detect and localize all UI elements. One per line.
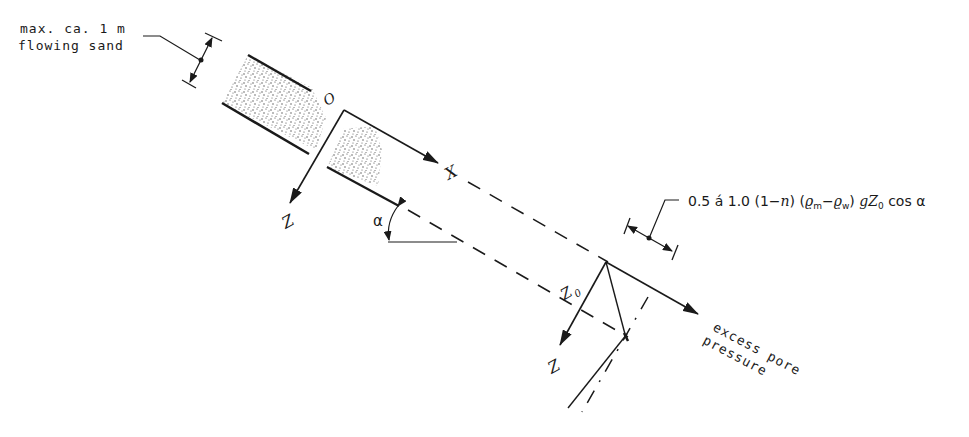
origin-label: O: [320, 89, 338, 109]
alpha-label: α: [373, 212, 383, 230]
pressure-magnitude-annotation: 0.5 á 1.0 (1−n) (ϱm−ϱw) gZ0 cos α: [624, 193, 925, 260]
slope-angle-indicator: α: [373, 206, 457, 242]
z0-label: Z 0: [556, 279, 583, 306]
sand-block-lower: [327, 126, 399, 206]
dashed-reference-lines: [408, 182, 648, 412]
pressure-formula: 0.5 á 1.0 (1−n) (ϱm−ϱw) gZ0 cos α: [688, 193, 925, 211]
sand-block-upper: [222, 55, 326, 154]
z-axis-label-lower: Z: [544, 355, 564, 378]
z-axis-label-upper: Z: [278, 210, 298, 233]
diagram-canvas: max. ca. 1 m flowing sand O X Z α: [0, 0, 969, 437]
svg-text:Z: Z: [556, 283, 575, 305]
sand-label-line2: flowing sand: [18, 38, 124, 53]
excess-pore-pressure-diagram: Z excess pore pressure: [544, 262, 804, 408]
sand-thickness-annotation: max. ca. 1 m flowing sand: [18, 21, 222, 88]
x-axis-label: X: [440, 161, 461, 184]
sand-label-line1: max. ca. 1 m: [20, 21, 126, 36]
